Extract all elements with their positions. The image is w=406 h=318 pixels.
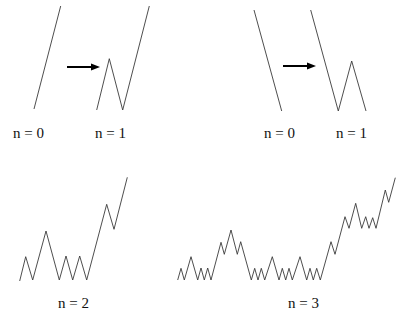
label-top-left-n0: n = 0 <box>13 126 44 141</box>
curve-top-right-n0 <box>254 10 282 111</box>
arrow-head <box>91 64 100 71</box>
curve-top-right-n1 <box>311 10 366 111</box>
arrow-icon <box>67 64 100 71</box>
arrow-icon <box>283 63 316 70</box>
label-top-left-n1: n = 1 <box>95 126 126 141</box>
curve-top-left-n1 <box>97 6 150 110</box>
curve-n2 <box>20 177 128 281</box>
curve-top-left-n0 <box>34 6 61 109</box>
fractal-iteration-diagram <box>0 0 406 318</box>
label-n3: n = 3 <box>288 296 319 311</box>
panel-bottom-right <box>178 178 396 280</box>
panel-top-left <box>34 6 149 110</box>
label-top-right-n1: n = 1 <box>336 126 367 141</box>
label-n2: n = 2 <box>58 296 89 311</box>
panel-top-right <box>254 10 366 111</box>
curve-n3 <box>178 178 396 280</box>
arrow-head <box>307 63 316 70</box>
label-top-right-n0: n = 0 <box>264 126 295 141</box>
panel-bottom-left <box>20 177 128 281</box>
